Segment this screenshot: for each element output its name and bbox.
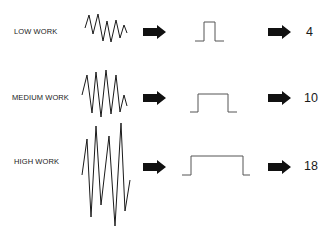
row-low-work — [85, 14, 291, 42]
right-arrow-icon — [143, 160, 166, 174]
row-medium-work — [82, 70, 291, 117]
right-arrow-icon — [268, 25, 291, 39]
high-work-label: HIGH WORK — [14, 157, 59, 166]
medium-work-value: 10 — [304, 91, 318, 105]
low-work-waveform — [85, 14, 127, 42]
high-work-pulse — [182, 156, 250, 175]
low-work-value: 4 — [306, 25, 313, 39]
high-work-waveform — [82, 123, 130, 226]
medium-work-waveform — [82, 70, 127, 117]
right-arrow-icon — [143, 25, 166, 39]
low-work-pulse — [195, 22, 224, 41]
medium-work-pulse — [190, 94, 237, 112]
medium-work-label: MEDIUM WORK — [12, 93, 69, 102]
right-arrow-icon — [268, 91, 291, 105]
row-high-work — [82, 123, 291, 226]
high-work-value: 18 — [304, 159, 318, 173]
right-arrow-icon — [143, 91, 166, 105]
low-work-label: LOW WORK — [14, 27, 57, 36]
right-arrow-icon — [268, 160, 291, 174]
